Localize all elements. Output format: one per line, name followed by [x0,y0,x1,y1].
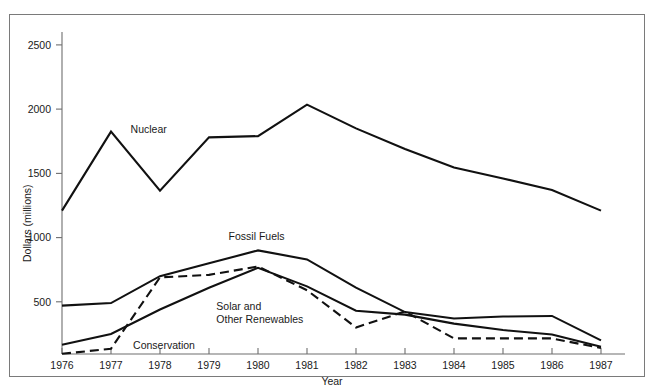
x-tick-label-1984: 1984 [442,359,466,371]
figure-container: 2500 2000 1500 1000 500 Dollars (million… [0,0,655,390]
series-line-nuclear [62,105,601,211]
series-label-nuclear: Nuclear [131,123,168,135]
y-tick-label-2500: 2500 [28,39,52,51]
y-tick-label-1500: 1500 [28,167,52,179]
x-tick-label-1979: 1979 [197,359,221,371]
x-tick-label-1986: 1986 [540,359,564,371]
line-chart: 2500 2000 1500 1000 500 Dollars (million… [0,0,655,390]
x-tick-label-1977: 1977 [99,359,123,371]
y-axis-title: Dollars (millions) [21,184,33,262]
x-tick-label-1987: 1987 [589,359,613,371]
x-axis-title: Year [321,375,343,387]
series-line-solar-and-other-renewables [62,268,601,347]
x-tick-label-1983: 1983 [393,359,417,371]
x-tick-label-1981: 1981 [295,359,319,371]
series-group [62,105,601,354]
x-tick-label-1982: 1982 [344,359,368,371]
x-tick-label-1985: 1985 [491,359,515,371]
y-tick-label-500: 500 [33,296,51,308]
series-label-group: NuclearFossil FuelsSolar andOther Renewa… [131,123,304,351]
series-label-conservation: Conservation [133,339,195,351]
series-label-fossil-fuels: Fossil Fuels [229,230,285,242]
series-label-solar-and-other-renewables: Solar andOther Renewables [216,300,303,325]
x-tick-label-1978: 1978 [148,359,172,371]
y-tick-label-2000: 2000 [28,103,52,115]
x-tick-label-1976: 1976 [50,359,74,371]
y-tick-marks [56,45,62,302]
series-line-fossil-fuels [62,250,601,340]
x-tick-label-1980: 1980 [246,359,270,371]
